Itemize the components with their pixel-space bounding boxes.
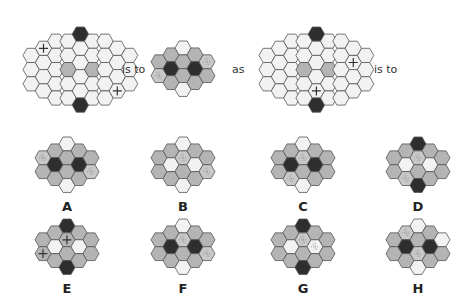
- hex-cell: [434, 151, 450, 165]
- option-label-f[interactable]: F: [173, 281, 193, 296]
- option-label-b[interactable]: B: [173, 199, 193, 214]
- hex-cell: [434, 233, 450, 247]
- option-d-grid: [385, 136, 451, 193]
- option-g-grid: [270, 218, 336, 275]
- hex-cell: [83, 233, 99, 247]
- option-label-c[interactable]: C: [293, 199, 313, 214]
- hex-cell: [199, 151, 215, 165]
- hex-cell: [357, 63, 373, 77]
- option-label-g[interactable]: G: [293, 281, 313, 296]
- option-label-a[interactable]: A: [57, 199, 77, 214]
- option-c-grid: [270, 136, 336, 193]
- hex-cell: [121, 77, 137, 91]
- option-h-grid: [385, 218, 451, 275]
- hex-cell: [83, 151, 99, 165]
- hex-cell: [357, 48, 373, 62]
- hex-cell: [434, 165, 450, 179]
- hex-cell: [121, 48, 137, 62]
- option-b-grid: [150, 136, 216, 193]
- option-label-h[interactable]: H: [408, 281, 428, 296]
- hex-cell: [83, 247, 99, 261]
- question-grid-2: [150, 40, 216, 97]
- hex-cell: [434, 247, 450, 261]
- hex-cell: [199, 69, 215, 83]
- option-a-grid: [34, 136, 100, 193]
- option-label-d[interactable]: D: [408, 199, 428, 214]
- option-e-grid: [34, 218, 100, 275]
- connector-text: as: [232, 63, 244, 76]
- hex-cell: [319, 247, 335, 261]
- hex-cell: [319, 151, 335, 165]
- option-label-e[interactable]: E: [57, 281, 77, 296]
- question-grid-3: [258, 26, 375, 113]
- connector-text: is to: [122, 63, 145, 76]
- hex-cell: [319, 233, 335, 247]
- option-f-grid: [150, 218, 216, 275]
- connector-text: is to: [374, 63, 397, 76]
- hex-cell: [357, 77, 373, 91]
- hex-cell: [199, 233, 215, 247]
- hex-cell: [319, 165, 335, 179]
